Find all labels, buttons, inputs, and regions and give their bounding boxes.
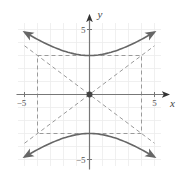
hyperbola-plot: −5 5 5 −5 x y <box>0 0 183 175</box>
x-axis-label: x <box>169 97 175 109</box>
center-point <box>87 92 93 98</box>
y-tick-label-neg5: −5 <box>76 155 86 165</box>
labels: −5 5 5 −5 x y <box>17 8 175 165</box>
y-tick-label-5: 5 <box>81 25 86 35</box>
x-tick-label-neg5: −5 <box>17 98 27 108</box>
y-axis-label: y <box>97 8 103 20</box>
x-tick-label-5: 5 <box>152 98 157 108</box>
